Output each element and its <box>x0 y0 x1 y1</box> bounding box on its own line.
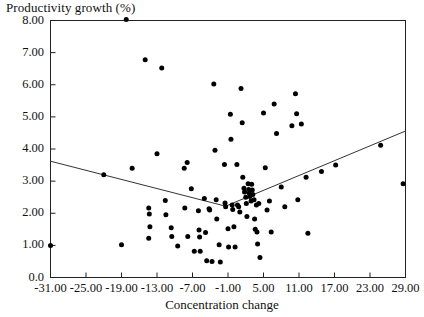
scatter-plot-figure: Productivity growth (%) 0.01.002.003.004… <box>0 0 424 317</box>
data-point <box>214 197 219 202</box>
data-point <box>204 258 209 263</box>
data-point <box>147 211 152 216</box>
data-points <box>48 17 406 265</box>
data-point <box>233 244 238 249</box>
axes-frame <box>51 21 406 278</box>
data-point <box>202 196 207 201</box>
data-point <box>203 230 208 235</box>
data-point <box>240 120 245 125</box>
data-point <box>272 102 277 107</box>
x-axis-title-text: Concentration change <box>165 297 279 312</box>
x-axis-title: Concentration change <box>0 297 424 312</box>
data-point <box>295 197 300 202</box>
x-axis-ticks <box>86 273 370 278</box>
data-point <box>212 148 217 153</box>
data-point <box>48 243 53 248</box>
y-tick-label: 8.00 <box>0 14 44 27</box>
data-point <box>217 242 222 247</box>
data-point <box>305 231 310 236</box>
data-point <box>289 123 294 128</box>
data-point <box>267 199 272 204</box>
data-point <box>250 188 255 193</box>
data-point <box>124 17 129 22</box>
data-point <box>197 235 202 240</box>
data-point <box>239 86 244 91</box>
data-point <box>196 208 201 213</box>
data-point <box>293 91 298 96</box>
data-point <box>252 217 257 222</box>
data-point <box>252 197 257 202</box>
data-point <box>256 201 261 206</box>
plot-frame <box>51 21 406 278</box>
y-tick-label: 3.00 <box>0 174 44 187</box>
data-point <box>319 169 324 174</box>
data-point <box>244 201 249 206</box>
data-point <box>228 137 233 142</box>
data-point <box>282 204 287 209</box>
data-point <box>304 175 309 180</box>
data-point <box>182 206 187 211</box>
data-point <box>189 186 194 191</box>
data-point <box>401 181 406 186</box>
y-axis-ticks <box>51 53 56 246</box>
data-point <box>147 224 152 229</box>
data-point <box>230 207 235 212</box>
data-point <box>299 121 304 126</box>
data-point <box>155 151 160 156</box>
y-tick-label: 2.00 <box>0 206 44 219</box>
data-point <box>143 57 148 62</box>
data-point <box>240 175 245 180</box>
data-point <box>257 255 262 260</box>
data-point <box>146 236 151 241</box>
data-point <box>279 184 284 189</box>
data-point <box>269 229 274 234</box>
data-point <box>249 182 254 187</box>
data-point <box>333 163 338 168</box>
data-point <box>223 204 228 209</box>
y-tick-label: 7.00 <box>0 46 44 59</box>
data-point <box>198 249 203 254</box>
data-point <box>236 204 241 209</box>
data-point <box>146 206 151 211</box>
fit-line-path <box>51 131 406 206</box>
regression-fit-line <box>51 131 406 206</box>
data-point <box>211 82 216 87</box>
data-point <box>163 212 168 217</box>
data-point <box>222 162 227 167</box>
data-point <box>254 229 259 234</box>
data-point <box>230 202 235 207</box>
data-point <box>159 66 164 71</box>
data-point <box>101 172 106 177</box>
data-point <box>228 112 233 117</box>
data-point <box>169 225 174 230</box>
data-point <box>182 166 187 171</box>
data-point <box>237 209 242 214</box>
y-tick-label: 5.00 <box>0 110 44 123</box>
data-point <box>378 143 383 148</box>
data-point <box>294 111 299 116</box>
data-point <box>234 162 239 167</box>
y-tick-label: 1.00 <box>0 238 44 251</box>
data-point <box>192 249 197 254</box>
data-point <box>169 234 174 239</box>
data-point <box>163 198 168 203</box>
data-point <box>207 208 212 213</box>
y-tick-label: 6.00 <box>0 78 44 91</box>
data-point <box>242 190 247 195</box>
x-tick-label: 29.00 <box>378 282 424 295</box>
data-point <box>226 226 231 231</box>
data-point <box>231 224 236 229</box>
data-point <box>214 217 219 222</box>
data-point <box>185 234 190 239</box>
data-point <box>175 244 180 249</box>
data-point <box>255 242 260 247</box>
data-point <box>130 166 135 171</box>
data-point <box>226 244 231 249</box>
data-point <box>119 242 124 247</box>
data-point <box>263 165 268 170</box>
y-tick-label: 4.00 <box>0 142 44 155</box>
data-point <box>218 260 223 265</box>
data-point <box>261 111 266 116</box>
data-point <box>197 227 202 232</box>
data-point <box>250 192 255 197</box>
